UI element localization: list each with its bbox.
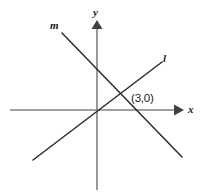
line-l-label: l (163, 53, 166, 64)
figure-canvas (0, 0, 204, 195)
coordinate-plane-figure: y x l m (3,0) (0, 0, 204, 195)
x-axis-arrowhead (174, 105, 184, 116)
line-m-label: m (50, 20, 59, 31)
y-axis-arrowhead (92, 20, 103, 29)
y-axis-label: y (93, 7, 98, 18)
point-coordinate-label: (3,0) (131, 93, 154, 105)
y-axis (92, 20, 103, 190)
x-axis-label: x (188, 104, 194, 115)
